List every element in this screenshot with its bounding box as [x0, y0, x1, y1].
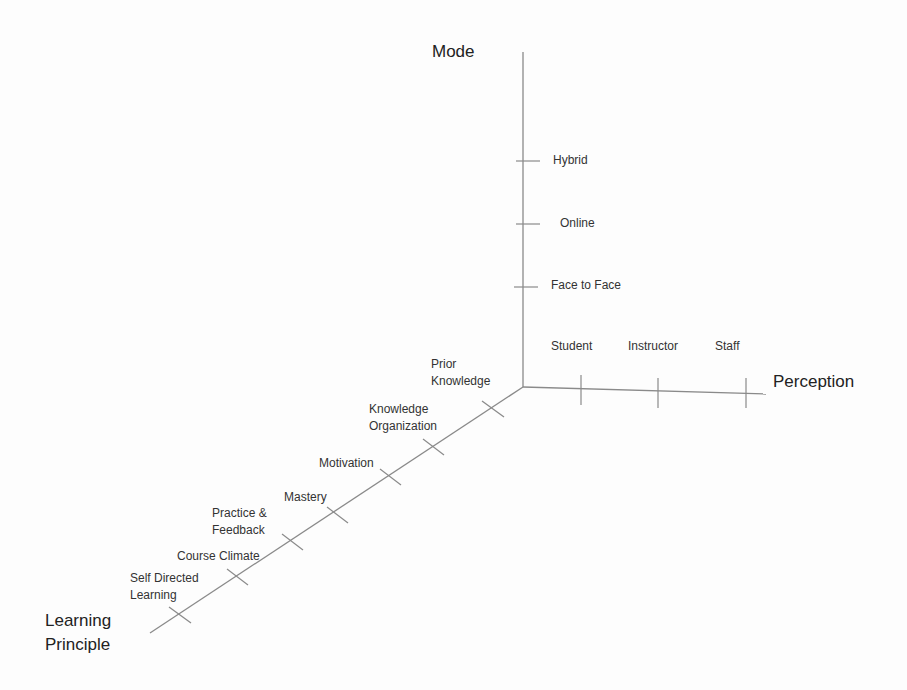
- lp-tick-course-climate: [227, 569, 248, 585]
- lp-tick-practice-feedback: [282, 534, 303, 550]
- lp-label-mastery: Mastery: [284, 489, 327, 506]
- lp-label-line: Self Directed: [130, 570, 199, 587]
- lp-label-self-directed-learning: Self Directed Learning: [130, 570, 199, 604]
- lp-label-motivation: Motivation: [319, 455, 374, 472]
- perception-label-student: Student: [551, 338, 592, 355]
- lp-label-line: Knowledge: [369, 401, 437, 418]
- mode-axis-title: Mode: [432, 41, 475, 63]
- lp-label-line: Organization: [369, 418, 437, 435]
- lp-label-line: Prior: [431, 356, 490, 373]
- learning-principle-title-line1: Learning: [45, 609, 111, 633]
- perception-axis-line: [523, 387, 766, 394]
- mode-label-online: Online: [560, 215, 595, 232]
- mode-label-face-to-face: Face to Face: [551, 277, 621, 294]
- lp-label-line: Learning: [130, 587, 199, 604]
- lp-label-line: Knowledge: [431, 373, 490, 390]
- lp-label-practice-feedback: Practice & Feedback: [212, 505, 267, 539]
- lp-label-line: Feedback: [212, 522, 267, 539]
- learning-principle-axis-title: Learning Principle: [45, 609, 111, 657]
- perception-label-instructor: Instructor: [628, 338, 678, 355]
- lp-label-course-climate: Course Climate: [177, 548, 260, 565]
- perception-axis-title: Perception: [773, 371, 854, 393]
- perception-label-staff: Staff: [715, 338, 739, 355]
- lp-label-line: Practice &: [212, 505, 267, 522]
- lp-tick-prior-knowledge: [482, 401, 504, 417]
- learning-principle-axis-line: [150, 387, 523, 633]
- lp-tick-motivation: [380, 469, 401, 485]
- lp-tick-self-directed-learning: [169, 607, 191, 623]
- learning-principle-title-line2: Principle: [45, 633, 111, 657]
- lp-label-knowledge-organization: Knowledge Organization: [369, 401, 437, 435]
- lp-label-prior-knowledge: Prior Knowledge: [431, 356, 490, 390]
- mode-label-hybrid: Hybrid: [553, 152, 588, 169]
